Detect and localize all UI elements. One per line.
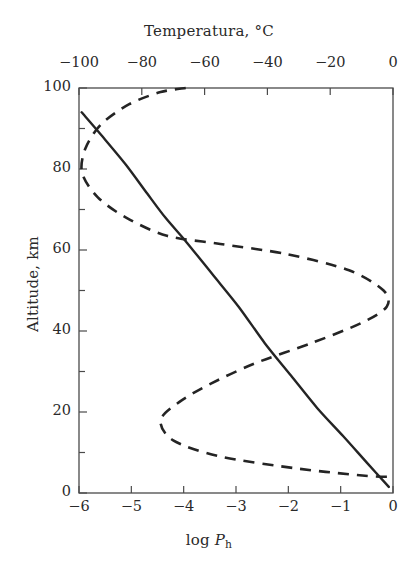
bottom-axis-title-subscript: h bbox=[225, 538, 232, 551]
y-tick-label: 20 bbox=[13, 402, 71, 418]
y-tick-label: 60 bbox=[13, 240, 71, 256]
x-bottom-tick-label: 0 bbox=[363, 498, 418, 514]
top-axis-title: Temperatura, °C bbox=[0, 22, 418, 40]
x-bottom-tick-label: −5 bbox=[101, 498, 161, 514]
x-bottom-tick-label: −4 bbox=[154, 498, 214, 514]
x-top-tick-label: −100 bbox=[49, 54, 109, 70]
pressure-curve bbox=[82, 112, 389, 487]
x-top-tick-label: −40 bbox=[237, 54, 297, 70]
x-top-tick-label: −80 bbox=[112, 54, 172, 70]
y-tick-label: 0 bbox=[13, 483, 71, 499]
plot-border bbox=[79, 88, 393, 493]
x-bottom-tick-label: −3 bbox=[206, 498, 266, 514]
bottom-axis-title-symbol: P bbox=[215, 531, 225, 549]
y-tick-label: 80 bbox=[13, 159, 71, 175]
x-bottom-tick-label: −6 bbox=[49, 498, 109, 514]
atmospheric-profile-figure: Temperatura, °C log Ph Altitude, km −100… bbox=[0, 0, 418, 577]
x-top-tick-label: −20 bbox=[300, 54, 360, 70]
temperature-curve bbox=[81, 88, 393, 477]
x-top-tick-label: 0 bbox=[363, 54, 418, 70]
x-bottom-tick-label: −1 bbox=[311, 498, 371, 514]
y-axis-title: Altitude, km bbox=[24, 204, 42, 364]
x-bottom-tick-label: −2 bbox=[258, 498, 318, 514]
x-top-tick-label: −60 bbox=[175, 54, 235, 70]
axis-tick-marks bbox=[79, 88, 393, 493]
plot-frame bbox=[79, 88, 393, 493]
bottom-axis-title: log Ph bbox=[0, 531, 418, 551]
y-tick-label: 100 bbox=[13, 78, 71, 94]
y-tick-label: 40 bbox=[13, 321, 71, 337]
bottom-axis-title-prefix: log bbox=[186, 531, 215, 549]
